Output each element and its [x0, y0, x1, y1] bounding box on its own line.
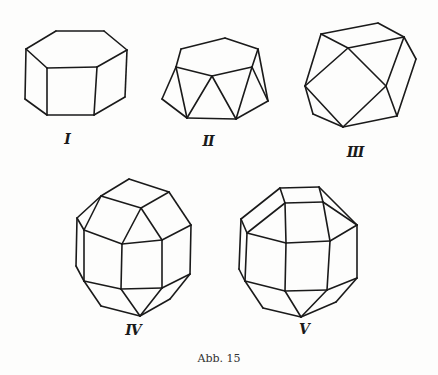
crystal-edge: [397, 59, 416, 116]
crystal-edge: [26, 31, 56, 49]
crystal-edge: [285, 290, 327, 291]
crystal-edge: [239, 219, 241, 269]
crystal-drawings: [0, 0, 438, 375]
crystal-iv: [76, 179, 191, 316]
crystal-label-ii: II: [202, 133, 213, 149]
crystal-edge: [77, 218, 84, 230]
crystal-edge: [252, 67, 268, 101]
crystal-edge: [77, 196, 101, 218]
crystal-edge: [47, 67, 97, 68]
crystal-edge: [386, 37, 404, 86]
crystal-edge: [187, 76, 212, 118]
crystal-edge: [176, 67, 212, 76]
crystal-edge: [323, 202, 330, 241]
crystal-label-iv: IV: [125, 322, 140, 338]
crystal-iii: [305, 23, 416, 127]
crystal-edge: [404, 37, 416, 59]
crystal-edge: [181, 38, 225, 49]
crystal-edge: [26, 49, 47, 68]
crystal-edge: [321, 34, 348, 48]
crystal-edge: [84, 230, 122, 244]
crystal-edge: [122, 240, 162, 244]
crystal-edge: [245, 233, 247, 281]
crystal-edge: [280, 188, 285, 203]
crystal-edge: [94, 67, 97, 115]
crystal-edge: [247, 233, 286, 243]
crystal-edge: [386, 86, 397, 116]
crystal-edge: [258, 49, 268, 101]
crystal-v: [239, 187, 357, 317]
crystal-edge: [301, 302, 336, 317]
crystal-edge: [76, 218, 77, 266]
crystal-edge: [176, 49, 181, 67]
crystal-edge: [321, 23, 378, 34]
crystal-edge: [348, 37, 404, 48]
crystal-edge: [330, 225, 357, 241]
crystal-edge: [323, 202, 357, 225]
crystal-edge: [187, 118, 236, 119]
crystal-edge: [285, 203, 286, 243]
crystal-i: [25, 31, 127, 115]
crystal-edge: [94, 97, 125, 115]
crystal-edge: [313, 114, 343, 127]
crystal-edge: [263, 308, 301, 317]
crystal-edge: [25, 49, 26, 99]
crystal-label-iii: III: [347, 144, 364, 160]
crystal-edge: [104, 31, 127, 50]
crystal-edge: [212, 67, 252, 76]
crystal-label-i: I: [64, 131, 70, 147]
crystal-edge: [285, 202, 323, 203]
crystal-label-v: V: [299, 321, 309, 337]
crystal-edge: [247, 203, 285, 233]
crystal-edge: [286, 241, 330, 243]
crystal-edge: [101, 196, 141, 208]
crystal-edge: [319, 187, 357, 225]
crystal-ii: [162, 38, 268, 119]
figure-caption: Abb. 15: [197, 352, 240, 365]
figure-page: IIIIIIIVV Abb. 15: [0, 0, 438, 375]
crystal-edge: [141, 208, 162, 240]
crystal-edge: [84, 196, 101, 230]
crystal-edge: [162, 274, 190, 288]
crystal-edge: [327, 241, 330, 290]
crystal-edge: [121, 288, 162, 289]
crystal-edge: [343, 116, 397, 127]
crystal-edge: [285, 243, 286, 291]
crystal-edge: [280, 187, 319, 188]
crystal-edge: [301, 290, 327, 317]
crystal-edge: [76, 266, 84, 281]
crystal-edge: [170, 274, 190, 299]
crystal-edge: [212, 76, 236, 119]
crystal-edge: [252, 49, 258, 67]
crystal-edge: [140, 288, 162, 316]
crystal-edge: [343, 86, 386, 127]
crystal-edge: [225, 38, 258, 49]
crystal-edge: [25, 99, 47, 115]
crystal-edge: [97, 50, 127, 67]
crystal-edge: [241, 188, 280, 219]
crystal-edge: [378, 23, 404, 37]
crystal-edge: [141, 192, 169, 208]
crystal-edge: [348, 48, 386, 86]
crystal-edge: [125, 50, 127, 97]
crystal-edge: [122, 208, 141, 244]
crystal-edge: [162, 225, 191, 240]
crystal-edge: [241, 219, 247, 233]
crystal-edge: [101, 179, 129, 196]
crystal-edge: [121, 244, 122, 289]
crystal-edge: [190, 225, 191, 274]
crystal-edge: [169, 192, 191, 225]
crystal-edge: [129, 179, 169, 192]
crystal-edge: [140, 299, 170, 316]
crystal-edge: [239, 269, 245, 281]
crystal-edge: [162, 67, 176, 99]
